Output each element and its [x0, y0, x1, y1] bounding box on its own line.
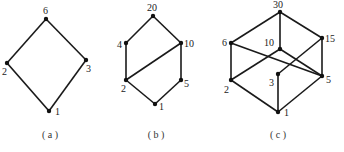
node-label: 2: [121, 83, 126, 94]
node-10: [179, 41, 183, 45]
node-label: 6: [43, 5, 48, 16]
node-label: 6: [222, 37, 227, 48]
edge-10-2: [231, 49, 280, 80]
node-label: 1: [159, 101, 164, 112]
hasse-diagram-b: 20410251( b ): [117, 2, 194, 141]
node-2: [124, 78, 128, 82]
node-1: [276, 110, 280, 114]
node-label: 5: [184, 78, 189, 89]
node-label: 10: [184, 38, 194, 49]
node-20: [151, 14, 155, 18]
node-5: [179, 78, 183, 82]
node-label: 15: [325, 33, 335, 44]
node-6: [44, 17, 48, 21]
edge-3-1: [49, 60, 86, 111]
edge-6-3: [46, 19, 86, 60]
edge-20-4: [126, 16, 153, 43]
node-4: [124, 41, 128, 45]
node-3: [276, 72, 280, 76]
node-10: [278, 47, 282, 51]
edge-2-1: [126, 80, 155, 104]
node-label: 20: [147, 2, 157, 13]
node-5: [320, 74, 324, 78]
edge-10-2: [126, 43, 181, 80]
node-6: [229, 41, 233, 45]
node-label: 5: [326, 74, 331, 85]
node-2: [229, 78, 233, 82]
node-label: 10: [264, 37, 274, 48]
node-3: [84, 58, 88, 62]
node-30: [278, 10, 282, 14]
node-label: 3: [269, 77, 274, 88]
hasse-diagrams-figure: 6231( a )20410251( b )30610153251( c ): [0, 0, 344, 152]
node-1: [153, 102, 157, 106]
node-label: 1: [55, 106, 60, 117]
hasse-diagram-a: 6231( a ): [2, 5, 91, 141]
edge-30-15: [280, 12, 322, 38]
node-label: 4: [117, 39, 122, 50]
node-label: 3: [86, 63, 91, 74]
node-1: [47, 109, 51, 113]
caption-b: ( b ): [148, 129, 165, 141]
node-label: 2: [224, 84, 229, 95]
node-label: 1: [284, 107, 289, 118]
node-label: 2: [2, 66, 7, 77]
edge-20-10: [153, 16, 181, 43]
node-label: 30: [273, 0, 283, 10]
caption-a: ( a ): [42, 129, 58, 141]
edge-6-2: [7, 19, 46, 63]
node-15: [320, 36, 324, 40]
caption-c: ( c ): [270, 129, 286, 141]
hasse-diagram-c: 30610153251( c ): [222, 0, 335, 141]
edge-2-1: [7, 63, 49, 111]
node-2: [5, 61, 9, 65]
